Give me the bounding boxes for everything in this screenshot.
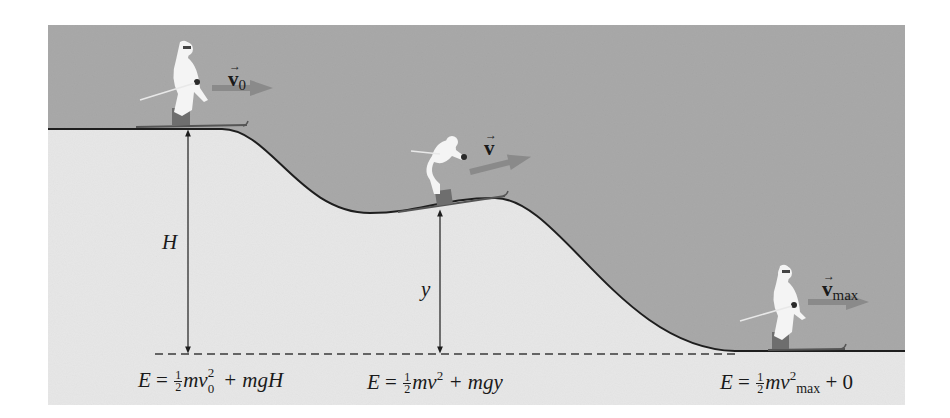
velocity-label-vmax: →vmax — [822, 279, 858, 303]
fraction-half: 12 — [403, 372, 411, 395]
vector-arrow-icon: → — [485, 129, 497, 141]
energy-equation-top: E = 12mv20 + mgH — [138, 368, 283, 394]
energy-diagram: →v0 →v →vmax H y E = 12mv20 + mgH E = 12… — [0, 0, 950, 418]
velocity-label-v: →v — [484, 138, 495, 159]
height-label-H: H — [162, 232, 177, 253]
energy-equation-middle: E = 12mv2 + mgy — [367, 368, 503, 396]
fraction-half: 12 — [174, 370, 182, 393]
height-label-y: y — [421, 279, 430, 300]
vector-arrow-icon: → — [823, 270, 835, 282]
velocity-label-v0: →v0 — [228, 69, 246, 93]
vector-arrow-icon: → — [229, 60, 241, 72]
fraction-half: 12 — [756, 372, 764, 395]
energy-equation-bottom: E = 12mv2max + 0 — [720, 368, 853, 397]
